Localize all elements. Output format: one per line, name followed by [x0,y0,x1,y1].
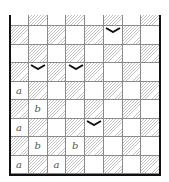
grid-cell [48,119,67,138]
grid-cell [48,100,67,119]
grid-cell [104,82,123,101]
grid-cell: b [66,137,85,156]
grid-cell [10,137,29,156]
grid-cell [85,100,104,119]
left-wall [9,15,11,176]
right-wall [159,15,161,176]
grid-cell [104,15,123,26]
chevron-down-icon [86,120,102,126]
grid-cell [29,26,48,45]
chevron-down-icon [30,64,46,70]
grid-cell [123,15,142,26]
grid-cell [141,63,160,82]
grid-cell [141,45,160,64]
grid-cell: a [10,82,29,101]
grid-cell [123,26,142,45]
grid-cell [10,15,29,26]
cell-label: b [72,140,78,151]
grid-cell [66,15,85,26]
grid-cell [141,137,160,156]
grid-cell [141,15,160,26]
grid-cell [85,156,104,175]
grid-cell [66,156,85,175]
grid-cell: b [29,100,48,119]
grid-cell [10,45,29,64]
grid-cell [104,119,123,138]
grid-cell [141,26,160,45]
cell-label: a [16,122,22,133]
bottom-wall [9,174,161,176]
grid-cell [85,15,104,26]
cell-label: b [34,140,40,151]
cell-label: a [16,85,22,96]
grid-cell [123,137,142,156]
grid-cell [123,119,142,138]
grid-cell [66,82,85,101]
grid-cell [141,156,160,175]
grid-cell [141,100,160,119]
chevron-down-icon [105,27,121,33]
grid-cell: a [10,156,29,175]
grid-cell: b [29,137,48,156]
grid-cell [48,15,67,26]
cell-label: a [53,159,59,170]
grid-cell [48,63,67,82]
grid-cell [85,45,104,64]
grid-cell: a [10,119,29,138]
chevron-down-icon [68,64,84,70]
grid-cell [123,63,142,82]
grid-cell [104,45,123,64]
grid-cell [141,82,160,101]
grid-cell [48,137,67,156]
grid-cell [141,119,160,138]
grid-cell: a [48,156,67,175]
grid-cell [104,156,123,175]
grid-cell [123,100,142,119]
grid-cell [123,156,142,175]
grid-cell [10,26,29,45]
grid-cell [104,137,123,156]
grid-cell [29,82,48,101]
grid-cell [66,26,85,45]
grid-cell [104,63,123,82]
grid-cell [66,100,85,119]
grid-cell [123,82,142,101]
grid-cell [29,156,48,175]
cell-label: a [16,159,22,170]
grid-cell [48,26,67,45]
grid-cell [29,119,48,138]
grid-cell [48,45,67,64]
grid-cell [29,15,48,26]
grid-cell [10,63,29,82]
checkerboard-grid: ababbaa [10,15,160,174]
grid-cell [29,45,48,64]
grid-cell [104,100,123,119]
grid-cell [10,100,29,119]
grid-cell [85,26,104,45]
grid-cell [66,45,85,64]
grid-cell [123,45,142,64]
grid-cell [85,63,104,82]
grid-cell [48,82,67,101]
cell-label: b [34,103,40,114]
grid-cell [85,137,104,156]
grid-cell [85,82,104,101]
grid-cell [66,119,85,138]
